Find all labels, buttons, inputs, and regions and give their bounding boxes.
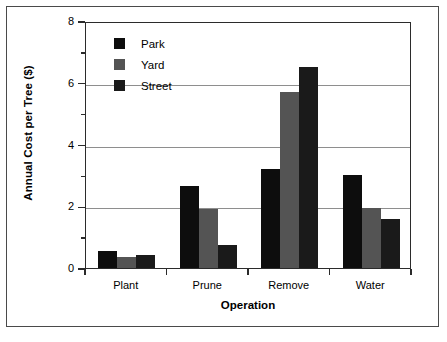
y-axis-tick-label: 8 [34,16,74,27]
x-axis-tick-label: Plant [81,279,171,291]
legend-item: Yard [114,54,222,75]
bar [299,67,318,268]
bar [381,219,400,268]
legend-swatch-icon [114,38,125,49]
y-axis-tick [78,83,85,84]
bar [199,209,218,268]
figure-frame: Annual Cost per Tree ($) 02468 ParkYardS… [6,6,439,327]
x-axis-tick-label: Remove [244,279,334,291]
y-axis-title: Annual Cost per Tree ($) [22,43,34,223]
legend-swatch-icon [114,59,125,70]
plot-area: ParkYardStreet [85,22,411,269]
x-axis-tick [329,269,330,275]
y-axis-tick [78,145,85,146]
bar [98,251,117,268]
legend-item: Park [114,33,222,54]
legend-swatch-icon [114,80,125,91]
y-axis-tick [78,207,85,208]
legend-item: Street [114,75,222,96]
bar [280,92,299,268]
bar-chart: Annual Cost per Tree ($) 02468 ParkYardS… [7,7,440,328]
bar [117,257,136,268]
x-axis-tick [166,269,167,275]
x-axis-tick [410,269,411,275]
y-axis-tick-label: 4 [34,140,74,151]
bar [218,245,237,268]
y-axis-tick-label: 0 [34,263,74,274]
bar [362,208,381,268]
x-axis-tick [84,269,85,275]
bar [343,175,362,268]
chart-legend: ParkYardStreet [114,33,222,96]
bar [136,255,155,268]
bar [261,169,280,268]
legend-label: Yard [141,59,164,71]
x-axis-title: Operation [85,299,411,311]
y-axis-tick-label: 2 [34,201,74,212]
x-axis-tick-label: Prune [162,279,252,291]
x-axis-tick [247,269,248,275]
x-axis-tick-label: Water [325,279,415,291]
y-axis-tick [78,21,85,22]
legend-label: Park [141,38,165,50]
bar [180,186,199,268]
y-axis-tick-label: 6 [34,78,74,89]
legend-label: Street [141,80,172,92]
